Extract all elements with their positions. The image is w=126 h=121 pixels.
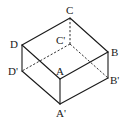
edge-DA: [22, 45, 60, 79]
edge-C'B': [70, 44, 108, 78]
label-A-prime: A': [56, 107, 66, 119]
label-A: A: [56, 65, 64, 77]
edge-BC: [70, 18, 108, 52]
edge-A'B': [60, 78, 108, 104]
label-B-prime: B': [110, 74, 119, 86]
edge-A'D': [22, 71, 60, 104]
label-C: C: [66, 4, 73, 16]
label-D-prime: D': [8, 65, 18, 77]
label-D: D: [10, 38, 18, 50]
cuboid-diagram: C D C' B D' A B' A': [0, 0, 126, 121]
label-C-prime: C': [56, 34, 65, 46]
edge-AB: [60, 52, 108, 79]
label-B: B: [111, 46, 118, 58]
